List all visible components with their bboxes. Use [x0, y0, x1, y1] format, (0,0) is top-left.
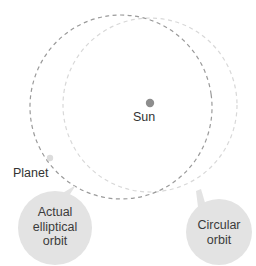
orbit-diagram: Sun Planet Actual elliptical orbit Circu… — [0, 0, 256, 266]
circular-callout-line-1: Circular — [186, 218, 252, 233]
elliptical-callout-line-3: orbit — [18, 234, 92, 249]
elliptical-orbit-path — [18, 3, 224, 211]
sun-dot — [146, 99, 154, 107]
circular-callout-line-2: orbit — [186, 233, 252, 248]
circular-callout-label: Circular orbit — [186, 218, 252, 247]
elliptical-callout-line-1: Actual — [18, 205, 92, 220]
sun-label: Sun — [133, 110, 155, 125]
elliptical-callout-line-2: elliptical — [18, 220, 92, 235]
planet-dot — [47, 155, 53, 161]
elliptical-callout-label: Actual elliptical orbit — [18, 205, 92, 249]
planet-label: Planet — [13, 166, 48, 181]
